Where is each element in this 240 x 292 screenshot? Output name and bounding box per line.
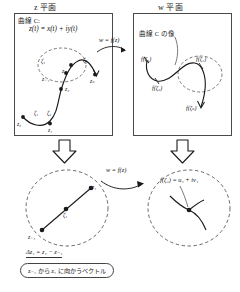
w-plane-curve-graphic <box>133 13 232 136</box>
zoom-right-equation: f(ζ₁) = u₁ + iv₁ <box>160 176 198 183</box>
label-zeta-j: ζ₁ <box>41 58 45 64</box>
zoom-right-leader <box>180 186 188 207</box>
zoom-right-arc-b <box>189 200 204 210</box>
mapping-label-bottom: w = f(z) <box>106 166 126 173</box>
zoom-label-zk-minus-1: z₋₁ <box>28 234 35 240</box>
label-zn: zₙ <box>90 78 94 84</box>
zoom-circle-left-graphic <box>24 168 110 248</box>
point-zn <box>93 73 97 77</box>
z-plane-curve-graphic <box>14 13 113 136</box>
vector-note-pill: z₋₁ から z₁ に向かうベクトル <box>20 263 114 278</box>
point-z1 <box>48 122 52 126</box>
w-plane-curve-arrow <box>198 101 205 108</box>
label-zj: z₁ <box>62 68 66 74</box>
label-f-zeta-n: f(ζₙ) <box>186 104 197 111</box>
label-f-zeta1: f(ζ₁) <box>141 56 151 62</box>
point-z0 <box>21 115 25 119</box>
zoom-point-f-zeta-k <box>187 208 192 213</box>
label-f-zeta-j: f(ζ₁) <box>196 56 206 62</box>
header-z-plane: z 平面 <box>34 1 57 12</box>
zoom-label-zeta-k: ζ₁ <box>63 212 67 218</box>
down-arrow-right <box>170 139 196 165</box>
point-z2 <box>59 87 63 91</box>
figure-root: z 平面 w 平面 曲線 C: z(t) = x(t) + iy(t) z₀ ζ… <box>0 0 240 292</box>
label-f-zeta2: f(ζ₂) <box>152 85 162 91</box>
label-zeta2: ζ₂ <box>47 110 51 116</box>
down-arrow-left <box>52 139 78 165</box>
label-z2: z₂ <box>65 86 69 92</box>
zoom-point-zeta-k <box>64 207 69 212</box>
w-plane-curve-path <box>146 61 205 107</box>
label-z1: z₁ <box>48 127 52 133</box>
label-zeta1: ζ₁ <box>34 110 38 116</box>
zoom-point-zk-minus-1 <box>40 228 45 233</box>
w-plane-caption-leader <box>175 37 178 65</box>
label-zj-minus-1: z₋₁ <box>42 76 49 82</box>
mapping-label-top: w = f(z) <box>99 36 119 43</box>
mapping-arrow-bottom <box>100 176 146 192</box>
label-zeta-n: ζₙ <box>83 57 88 63</box>
mapping-arrow-top <box>96 43 128 57</box>
label-z0: z₀ <box>17 121 21 127</box>
point-zj <box>69 63 73 67</box>
zoom-label-zk: z₁ <box>92 184 96 190</box>
delta-z-equation: Δz₁ = z₁ − z₋₁ <box>26 248 62 258</box>
header-w-plane: w 平面 <box>158 1 183 12</box>
